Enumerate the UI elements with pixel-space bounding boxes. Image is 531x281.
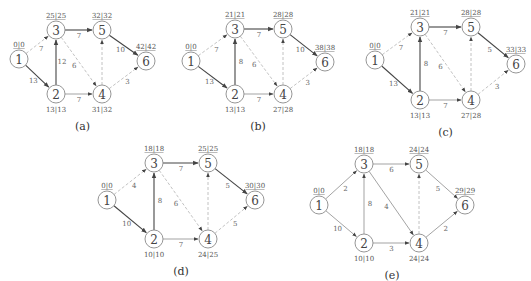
- node-time-label: 31|32: [92, 106, 112, 114]
- edge-weight-label: 7: [214, 46, 218, 54]
- node-2: 210|10: [144, 230, 164, 259]
- node-number: 5: [279, 23, 287, 37]
- edge-weight-label: 7: [77, 96, 81, 104]
- node-6: 642|42: [136, 43, 156, 70]
- node-number: 4: [98, 88, 106, 102]
- node-time-label: 24|24: [409, 146, 430, 154]
- edge-3-4: [369, 171, 413, 234]
- edge-weight-label: 5: [233, 220, 237, 228]
- edge-weight-label: 3: [305, 79, 309, 87]
- node-time-label: 29|29: [455, 187, 475, 195]
- edge-weight-label: 8: [158, 197, 162, 205]
- edge-3-4: [61, 37, 96, 86]
- node-time-label: 25|25: [46, 12, 66, 20]
- edge-weight-label: 7: [77, 32, 81, 40]
- node-number: 1: [371, 54, 379, 68]
- edge-weight-label: 5: [436, 185, 440, 193]
- node-number: 3: [52, 24, 60, 38]
- node-number: 3: [231, 23, 239, 37]
- edge-3-4: [425, 34, 465, 91]
- edge-weight-label: 7: [443, 102, 447, 110]
- node-number: 6: [142, 55, 150, 69]
- node-time-label: 24|25: [198, 251, 218, 259]
- node-6: 630|30: [245, 182, 265, 209]
- node-number: 2: [231, 88, 239, 102]
- edge-1-3: [326, 171, 357, 199]
- edge-weight-label: 7: [257, 96, 261, 104]
- node-4: 427|28: [461, 91, 481, 120]
- node-4: 427|28: [273, 85, 293, 114]
- node-time-label: 10|10: [144, 251, 164, 259]
- node-time-label: 0|0: [369, 42, 380, 50]
- node-3: 321|21: [410, 9, 430, 36]
- node-time-label: 27|28: [273, 106, 293, 114]
- node-time-label: 21|21: [410, 9, 430, 17]
- node-5: 524|24: [409, 146, 430, 173]
- node-time-label: 13|13: [410, 112, 430, 120]
- node-3: 318|18: [354, 146, 374, 173]
- edge-weight-label: 6: [72, 62, 77, 70]
- edge-weight-label: 3: [389, 245, 393, 253]
- node-1: 10|0: [182, 43, 200, 70]
- node-time-label: 18|18: [354, 146, 374, 154]
- node-number: 3: [150, 157, 158, 171]
- edge-weight-label: 6: [174, 200, 179, 208]
- edge-weight-label: 6: [252, 61, 257, 69]
- edge-weight-label: 7: [39, 45, 43, 53]
- edge-weight-label: 3: [125, 78, 129, 86]
- node-time-label: 13|13: [225, 106, 245, 114]
- node-4: 424|25: [198, 230, 218, 259]
- node-time-label: 10|10: [354, 255, 374, 263]
- node-6: 638|38: [315, 44, 335, 71]
- node-number: 6: [321, 56, 329, 70]
- edge-weight-label: 10: [122, 220, 131, 228]
- node-1: 10|0: [310, 187, 328, 214]
- node-1: 10|0: [10, 41, 28, 68]
- edge-weight-label: 7: [179, 165, 183, 173]
- node-number: 2: [416, 94, 424, 108]
- node-time-label: 0|0: [185, 43, 196, 51]
- node-time-label: 28|28: [273, 11, 293, 19]
- node-number: 4: [279, 88, 287, 102]
- node-2: 210|10: [354, 234, 374, 263]
- node-time-label: 13|13: [46, 106, 66, 114]
- panel-1: 713877610310|0213|13321|21427|28528|2863…: [182, 11, 335, 133]
- edge-3-4: [159, 170, 202, 231]
- panel-0: 7131277610310|0213|13325|25431|32532|326…: [10, 12, 156, 133]
- node-number: 6: [512, 58, 520, 72]
- node-2: 213|13: [46, 85, 66, 114]
- edge-weight-label: 5: [487, 46, 491, 54]
- panel-caption: (c): [438, 126, 453, 139]
- node-number: 5: [98, 24, 106, 38]
- node-time-label: 33|33: [506, 46, 526, 54]
- node-number: 4: [467, 94, 475, 108]
- edge-5-6: [215, 169, 247, 194]
- panel-caption: (d): [173, 265, 189, 278]
- node-number: 5: [204, 157, 212, 171]
- node-2: 213|13: [410, 91, 430, 120]
- node-time-label: 38|38: [315, 44, 335, 52]
- panel-3: 41087765510|0210|10318|18424|25525|25630…: [98, 145, 265, 278]
- node-time-label: 32|32: [92, 12, 112, 20]
- node-number: 2: [150, 233, 158, 247]
- node-time-label: 18|18: [144, 145, 164, 153]
- edge-weight-label: 13: [29, 77, 38, 85]
- edge-weight-label: 7: [257, 31, 261, 39]
- node-number: 1: [315, 199, 323, 213]
- edge-5-6: [426, 170, 458, 198]
- node-number: 3: [416, 21, 424, 35]
- node-time-label: 24|24: [409, 255, 430, 263]
- node-1: 10|0: [366, 42, 384, 69]
- node-4: 431|32: [92, 85, 112, 114]
- edge-weight-label: 12: [58, 58, 67, 66]
- node-5: 525|25: [198, 145, 218, 172]
- node-3: 325|25: [46, 12, 66, 39]
- node-time-label: 25|25: [198, 145, 218, 153]
- node-5: 528|28: [273, 11, 293, 38]
- node-time-label: 42|42: [136, 43, 156, 51]
- node-time-label: 27|28: [461, 112, 481, 120]
- edge-1-3: [198, 35, 227, 56]
- edge-weight-label: 7: [443, 29, 447, 37]
- panel-4: 21083645210|0210|10318|18424|24524|24629…: [310, 146, 475, 281]
- node-3: 318|18: [144, 145, 164, 172]
